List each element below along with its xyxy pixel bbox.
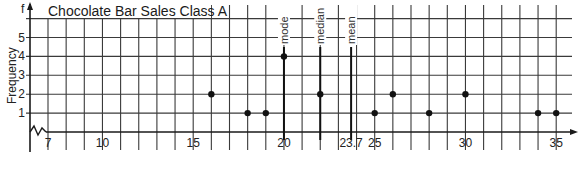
data-point <box>372 110 378 116</box>
stat-label-mean: mean <box>345 16 357 44</box>
statistic-markers: modemedianmean <box>278 5 357 140</box>
horizontal-grid-lines <box>26 19 572 114</box>
y-axis-title: Frequency <box>5 47 19 104</box>
y-tick-label: 5 <box>18 31 25 45</box>
x-tick-label: 15 <box>187 136 201 150</box>
y-tick-label: 1 <box>18 106 25 120</box>
vertical-grid-lines <box>48 5 556 150</box>
chart-title: Chocolate Bar Sales Class A <box>48 3 228 19</box>
x-tick-label: 25 <box>368 136 382 150</box>
data-point <box>553 110 559 116</box>
y-tick-labels: 12345 <box>18 31 25 121</box>
data-point <box>281 53 287 59</box>
y-tick-label: 2 <box>18 87 25 101</box>
x-tick-label: 7 <box>45 136 52 150</box>
data-points <box>208 53 559 116</box>
y-tick-label: 3 <box>18 68 25 82</box>
data-point <box>426 110 432 116</box>
x-tick-label: 20 <box>277 136 291 150</box>
y-tick-label: 4 <box>18 49 25 63</box>
y-axis-letter: f <box>21 2 25 16</box>
x-tick-label: 35 <box>550 136 564 150</box>
data-point <box>317 91 323 97</box>
data-point <box>535 110 541 116</box>
stat-label-median: median <box>314 8 326 44</box>
dot-plot-chart: Chocolate Bar Sales Class A modemedianme… <box>0 0 584 170</box>
data-point <box>208 91 214 97</box>
data-point <box>263 110 269 116</box>
stat-label-mode: mode <box>278 16 290 44</box>
data-point <box>390 91 396 97</box>
x-tick-label: 23.7 <box>339 136 363 150</box>
y-axis-arrow-icon <box>27 2 33 10</box>
data-point <box>244 110 250 116</box>
x-axis-arrow-icon <box>570 129 578 135</box>
x-tick-labels: 710152023.7253035 <box>45 136 564 150</box>
x-tick-label: 10 <box>96 136 110 150</box>
x-tick-label: 30 <box>459 136 473 150</box>
data-point <box>462 91 468 97</box>
axis-break-icon <box>30 126 46 135</box>
